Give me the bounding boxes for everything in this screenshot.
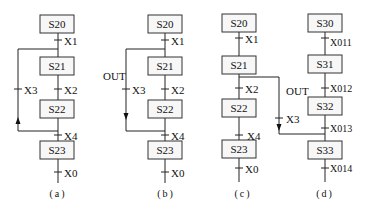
caption: (b) (157, 188, 175, 200)
diagram-d: S30 S31 S32 S33 X011 X012 X013 X014 (d) (308, 14, 352, 200)
caption: (d) (316, 188, 334, 200)
step-label: S31 (316, 58, 333, 70)
arrow-up-icon (16, 117, 21, 124)
step-label: S22 (48, 103, 65, 115)
transition-label: X2 (245, 83, 258, 95)
step-label: S32 (316, 100, 333, 112)
diagram-a: S20 S21 S22 S23 X1 X2 X3 X4 X0 (a) (14, 15, 78, 200)
step-label: S21 (230, 59, 247, 71)
transition-label: X1 (245, 33, 258, 45)
transition-label: X3 (24, 84, 38, 96)
branch-label: OUT (286, 85, 309, 97)
transition-label: X013 (330, 123, 352, 134)
diagram-c: S20 S21 S22 S23 X1 X2 X4 X0 (c) (222, 14, 261, 200)
step-label: S20 (156, 18, 174, 30)
transition-label: X014 (330, 163, 352, 174)
step-label: S20 (48, 18, 66, 30)
transition-label: X3 (286, 113, 300, 125)
arrow-down-icon (277, 124, 282, 131)
step-label: S21 (156, 60, 173, 72)
transition-label: X0 (64, 167, 78, 179)
transition-label: X4 (171, 130, 185, 142)
arrow-down-icon (124, 113, 129, 120)
step-label: S30 (316, 17, 334, 29)
caption: (c) (234, 188, 251, 200)
step-label: S23 (230, 143, 248, 155)
transition-label: X4 (64, 130, 78, 142)
transition-label: X4 (247, 130, 261, 142)
transition-label: X2 (171, 84, 184, 96)
caption: (a) (49, 188, 66, 200)
step-label: S23 (156, 144, 174, 156)
transition-label: X1 (171, 35, 184, 47)
transition-label: X1 (64, 35, 77, 47)
transition-label: X3 (132, 84, 146, 96)
transition-label: X0 (171, 167, 185, 179)
branch-label: OUT (103, 70, 126, 82)
step-label: S33 (316, 144, 334, 156)
transition-label: X0 (245, 163, 259, 175)
step-label: S21 (48, 60, 65, 72)
transition-label: X2 (64, 84, 77, 96)
diagram-b: S20 S21 S22 S23 X1 X2 X3 X4 X0 OUT (b) (103, 15, 185, 200)
step-label: S23 (48, 144, 66, 156)
step-label: S20 (230, 17, 248, 29)
transition-label: X012 (330, 83, 352, 94)
transition-label: X011 (330, 37, 352, 48)
sfc-diagrams: S20 S21 S22 S23 X1 X2 X3 X4 X0 (a) S20 S… (0, 0, 365, 213)
step-label: S22 (156, 103, 173, 115)
step-label: S22 (230, 102, 247, 114)
